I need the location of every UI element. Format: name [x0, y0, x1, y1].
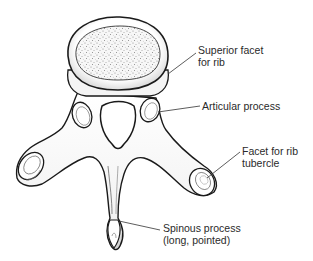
- label-line: for rib: [198, 56, 263, 68]
- label-line: Spinous process: [163, 222, 241, 234]
- leader-rib-tubercle: [207, 152, 240, 178]
- label-line: Facet for rib: [242, 145, 298, 157]
- vertebra-diagram: [0, 0, 313, 261]
- cancellous-bone-surface: [76, 26, 160, 80]
- label-rib-tubercle-facet: Facet for rib tubercle: [242, 145, 298, 169]
- label-articular-process: Articular process: [202, 100, 280, 112]
- leader-spinous-process: [119, 221, 160, 230]
- label-line: (long, pointed): [163, 234, 241, 246]
- leader-superior-facet: [168, 53, 196, 74]
- leader-articular-process: [158, 106, 200, 112]
- label-line: tubercle: [242, 157, 298, 169]
- vertebral-body: [68, 17, 169, 96]
- label-line: Articular process: [202, 100, 280, 112]
- label-line: Superior facet: [198, 44, 263, 56]
- label-spinous-process: Spinous process (long, pointed): [163, 222, 241, 246]
- label-superior-facet: Superior facet for rib: [198, 44, 263, 68]
